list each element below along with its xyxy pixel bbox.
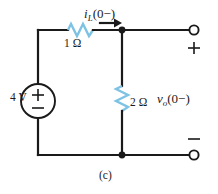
- output-voltage-label: vo(0−): [157, 92, 190, 108]
- circuit-diagram-figure: iL(0−) 1 Ω 2 Ω 4 V vo(0−) (c): [0, 0, 218, 194]
- junction-node-top: [119, 27, 126, 34]
- series-resistor-label: 1 Ω: [64, 38, 81, 50]
- figure-caption: (c): [99, 170, 112, 182]
- current-argument: (0−): [93, 6, 116, 21]
- series-resistor-symbol: [68, 24, 93, 36]
- output-terminal-negative[interactable]: [189, 150, 198, 159]
- shunt-resistor-label: 2 Ω: [130, 97, 147, 109]
- current-arrow-head: [114, 19, 122, 28]
- shunt-resistor-symbol: [116, 86, 128, 111]
- output-voltage-argument: (0−): [167, 91, 190, 106]
- junction-node-bottom: [119, 152, 126, 159]
- output-terminal-positive[interactable]: [189, 25, 198, 34]
- voltage-source-label: 4 V: [10, 92, 27, 104]
- current-label-il: iL(0−): [84, 7, 115, 23]
